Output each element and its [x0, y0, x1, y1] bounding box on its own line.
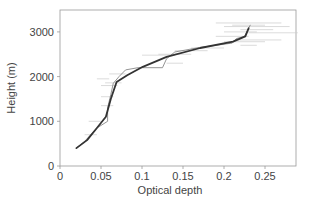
x-tick-label: 0.25 — [254, 170, 275, 182]
plot-frame — [60, 10, 296, 166]
x-tick-label: 0 — [57, 170, 63, 182]
y-tick-label: 3000 — [30, 26, 54, 38]
x-tick-label: 0.15 — [172, 170, 193, 182]
y-axis-label: Height (m) — [5, 62, 17, 113]
y-tick-label: 0 — [48, 160, 54, 172]
chart-root: 00.050.10.150.20.25 0100020003000 Optica… — [0, 0, 309, 207]
axis-ticks — [57, 32, 265, 169]
y-tick-label: 1000 — [30, 115, 54, 127]
smoothed-profile-line — [76, 28, 248, 148]
data-lines — [76, 25, 250, 148]
y-tick-label: 2000 — [30, 71, 54, 83]
x-tick-label: 0.2 — [216, 170, 231, 182]
x-axis-label: Optical depth — [138, 184, 203, 196]
x-tick-label: 0.1 — [134, 170, 149, 182]
x-tick-labels: 00.050.10.150.20.25 — [57, 170, 276, 182]
x-tick-label: 0.05 — [90, 170, 111, 182]
y-tick-labels: 0100020003000 — [30, 26, 54, 172]
